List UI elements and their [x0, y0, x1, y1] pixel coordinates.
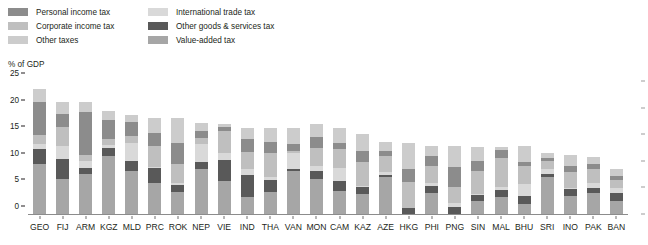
stacked-bar[interactable]: [125, 115, 138, 215]
bar-segment[interactable]: [333, 191, 346, 215]
stacked-bar[interactable]: [171, 118, 184, 215]
bar-segment[interactable]: [218, 160, 231, 181]
bar-segment[interactable]: [310, 124, 323, 137]
bar-slot[interactable]: SIN: [466, 82, 489, 215]
bar-segment[interactable]: [333, 181, 346, 191]
bar-segment[interactable]: [425, 156, 438, 166]
bar-segment[interactable]: [79, 102, 92, 112]
bar-segment[interactable]: [402, 143, 415, 169]
bar-segment[interactable]: [402, 182, 415, 208]
bar-slot[interactable]: PHI: [420, 82, 443, 215]
bar-segment[interactable]: [241, 197, 254, 215]
bar-segment[interactable]: [356, 151, 369, 162]
bar-segment[interactable]: [518, 196, 531, 204]
bar-segment[interactable]: [148, 133, 161, 146]
bar-segment[interactable]: [425, 166, 438, 183]
bar-segment[interactable]: [564, 172, 577, 187]
bar-segment[interactable]: [148, 118, 161, 133]
bar-segment[interactable]: [148, 168, 161, 182]
bar-segment[interactable]: [425, 193, 438, 215]
stacked-bar[interactable]: [564, 155, 577, 215]
bar-segment[interactable]: [379, 156, 392, 172]
bar-segment[interactable]: [56, 127, 69, 146]
bar-segment[interactable]: [287, 153, 300, 169]
bar-segment[interactable]: [333, 128, 346, 142]
bar-slot[interactable]: GEO: [28, 82, 51, 215]
bar-segment[interactable]: [610, 180, 623, 187]
bar-segment[interactable]: [79, 112, 92, 155]
bar-segment[interactable]: [125, 171, 138, 215]
bar-segment[interactable]: [171, 118, 184, 142]
bar-slot[interactable]: HKG: [397, 82, 420, 215]
bar-segment[interactable]: [218, 153, 231, 160]
stacked-bar[interactable]: [495, 147, 508, 215]
bar-segment[interactable]: [264, 192, 277, 215]
bar-segment[interactable]: [333, 149, 346, 168]
stacked-bar[interactable]: [310, 124, 323, 215]
bar-segment[interactable]: [56, 179, 69, 215]
bar-slot[interactable]: AZE: [374, 82, 397, 215]
bar-segment[interactable]: [171, 185, 184, 192]
bar-segment[interactable]: [33, 164, 46, 215]
bar-segment[interactable]: [471, 161, 484, 172]
stacked-bar[interactable]: [287, 128, 300, 215]
bar-slot[interactable]: MLD: [120, 82, 143, 215]
bar-segment[interactable]: [125, 122, 138, 136]
bar-segment[interactable]: [171, 143, 184, 165]
stacked-bar[interactable]: [587, 157, 600, 215]
bar-segment[interactable]: [195, 162, 208, 169]
stacked-bar[interactable]: [148, 118, 161, 215]
bar-segment[interactable]: [587, 193, 600, 215]
bar-slot[interactable]: PNG: [443, 82, 466, 215]
bar-segment[interactable]: [287, 128, 300, 143]
bar-slot[interactable]: MON: [305, 82, 328, 215]
bar-segment[interactable]: [495, 150, 508, 159]
bar-segment[interactable]: [379, 142, 392, 151]
bar-slot[interactable]: FIJ: [51, 82, 74, 215]
bar-segment[interactable]: [564, 196, 577, 215]
bar-segment[interactable]: [148, 146, 161, 167]
bar-segment[interactable]: [425, 146, 438, 156]
bar-segment[interactable]: [495, 197, 508, 215]
bar-segment[interactable]: [264, 142, 277, 153]
bar-segment[interactable]: [33, 102, 46, 134]
bar-slot[interactable]: VIE: [213, 82, 236, 215]
bar-segment[interactable]: [356, 162, 369, 185]
stacked-bar[interactable]: [195, 123, 208, 215]
bar-segment[interactable]: [610, 193, 623, 202]
bar-segment[interactable]: [518, 166, 531, 184]
stacked-bar[interactable]: [218, 124, 231, 215]
bar-segment[interactable]: [448, 146, 461, 167]
bar-slot[interactable]: BHU: [513, 82, 536, 215]
bar-segment[interactable]: [241, 175, 254, 198]
bar-segment[interactable]: [541, 177, 554, 215]
stacked-bar[interactable]: [241, 128, 254, 215]
stacked-bar[interactable]: [610, 169, 623, 215]
bar-segment[interactable]: [310, 137, 323, 148]
bar-segment[interactable]: [425, 186, 438, 193]
stacked-bar[interactable]: [448, 146, 461, 215]
bar-segment[interactable]: [471, 171, 484, 193]
stacked-bar[interactable]: [333, 128, 346, 215]
bar-segment[interactable]: [102, 111, 115, 120]
stacked-bar[interactable]: [33, 89, 46, 215]
bar-segment[interactable]: [310, 179, 323, 215]
bar-slot[interactable]: MAL: [490, 82, 513, 215]
bar-segment[interactable]: [564, 155, 577, 166]
bar-segment[interactable]: [79, 174, 92, 215]
stacked-bar[interactable]: [471, 147, 484, 215]
bar-segment[interactable]: [471, 147, 484, 161]
bar-segment[interactable]: [125, 143, 138, 161]
stacked-bar[interactable]: [56, 102, 69, 215]
bar-segment[interactable]: [448, 187, 461, 203]
bar-segment[interactable]: [125, 115, 138, 122]
bar-segment[interactable]: [518, 146, 531, 161]
bar-segment[interactable]: [287, 171, 300, 215]
bar-segment[interactable]: [310, 171, 323, 179]
bar-segment[interactable]: [148, 183, 161, 215]
stacked-bar[interactable]: [356, 134, 369, 215]
stacked-bar[interactable]: [79, 102, 92, 215]
bar-segment[interactable]: [171, 164, 184, 182]
bar-slot[interactable]: THA: [259, 82, 282, 215]
bar-segment[interactable]: [287, 144, 300, 151]
